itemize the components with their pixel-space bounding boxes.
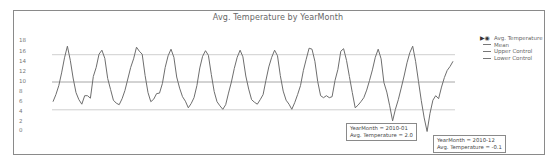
tooltip-2010-01: YearMonth = 2010-01 Avg. Temperature = 2…: [346, 123, 417, 141]
legend-item-upper-control[interactable]: Upper Control: [480, 48, 543, 55]
legend-item-lower-control[interactable]: Lower Control: [480, 55, 543, 62]
avg-temperature-line[interactable]: [53, 46, 453, 131]
series-marker-icon: ▶◉: [480, 35, 494, 42]
legend: ▶◉ Avg. Temperature Mean Upper Control L…: [480, 35, 543, 61]
legend-item-mean[interactable]: Mean: [480, 42, 543, 49]
legend-item-avg-temperature[interactable]: ▶◉ Avg. Temperature: [480, 35, 543, 42]
line-swatch-icon: [483, 44, 491, 45]
line-swatch-icon: [483, 58, 491, 59]
tooltip-2010-12: YearMonth = 2010-12 Avg. Temperature = -…: [433, 135, 506, 153]
line-swatch-icon: [483, 51, 491, 52]
